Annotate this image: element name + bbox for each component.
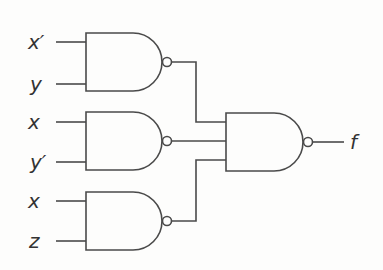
- input-label-z: z: [28, 229, 40, 253]
- input-label-y: y: [29, 72, 43, 96]
- inversion-bubble-icon: [163, 137, 172, 146]
- inversion-bubble-icon: [163, 58, 172, 67]
- output-label-f: f: [350, 130, 360, 154]
- nand-gate-1: [86, 33, 172, 91]
- input-label-x-prime: x′: [27, 30, 45, 54]
- inversion-bubble-icon: [304, 138, 313, 147]
- input-label-x: x: [27, 110, 40, 134]
- circuit-diagram: x′ y x y′ x z f: [0, 0, 383, 270]
- connecting-wires: [172, 62, 227, 221]
- input-label-y-prime: y′: [29, 150, 47, 174]
- input-wires: [56, 42, 86, 241]
- inversion-bubble-icon: [163, 217, 172, 226]
- input-label-x-2: x: [27, 189, 40, 213]
- nand-gate-3: [86, 192, 172, 250]
- nand-gate-output: [226, 113, 344, 171]
- nand-gate-2: [86, 112, 172, 170]
